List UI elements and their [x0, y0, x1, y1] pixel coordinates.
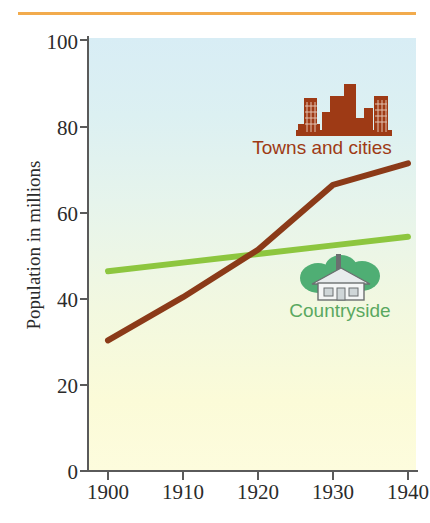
x-tick-mark-1930 [332, 471, 334, 480]
x-tick-1930: 1930 [293, 482, 373, 503]
x-tick-1920: 1920 [218, 482, 298, 503]
x-tick-mark-1920 [257, 471, 259, 480]
y-axis-line [87, 36, 89, 472]
y-tick-20: 20 [26, 376, 78, 397]
y-tick-80: 80 [26, 118, 78, 139]
city-skyline-icon [290, 82, 398, 136]
y-tick-0: 0 [26, 462, 78, 483]
x-tick-1910: 1910 [143, 482, 223, 503]
y-tick-mark-100 [80, 39, 89, 41]
y-tick-mark-60 [80, 212, 89, 214]
x-tick-mark-1940 [407, 471, 409, 480]
cottage-icon [296, 252, 386, 302]
x-tick-mark-1900 [107, 471, 109, 480]
y-tick-100: 100 [26, 32, 78, 53]
x-tick-mark-1910 [182, 471, 184, 480]
x-tick-1940: 1940 [368, 482, 430, 503]
y-tick-mark-40 [80, 298, 89, 300]
y-tick-40: 40 [26, 290, 78, 311]
figure-container: FIGURE 2 Population in millions 0 20 40 … [0, 0, 430, 523]
legend-label-countryside: Countryside [274, 300, 406, 322]
y-tick-labels: 0 20 40 60 80 100 [26, 0, 78, 523]
x-tick-1900: 1900 [68, 482, 148, 503]
y-tick-mark-0 [80, 470, 89, 472]
legend-label-towns-and-cities: Towns and cities [228, 137, 416, 159]
y-tick-60: 60 [26, 204, 78, 225]
x-axis-line [87, 470, 418, 472]
y-tick-mark-20 [80, 384, 89, 386]
y-tick-mark-80 [80, 126, 89, 128]
